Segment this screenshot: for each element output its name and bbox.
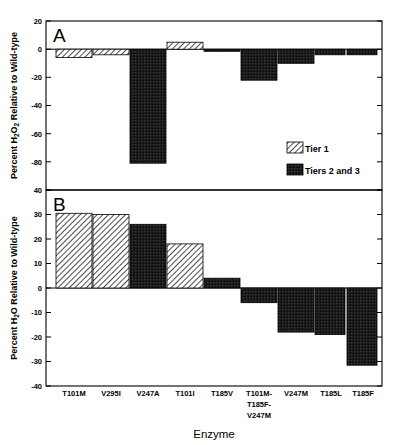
panel-a-ytick-1: 0	[38, 45, 42, 54]
panel-a-ytick-0: 20	[34, 17, 42, 26]
panel-a-ytick-5: -80	[31, 158, 42, 167]
svg-text:V247M: V247M	[247, 411, 271, 420]
xtick-label-3: T101I	[175, 389, 194, 398]
bar-a-T101I[interactable]	[167, 42, 203, 49]
svg-text:Percent H2O Relative to Wild-t: Percent H2O Relative to Wild-type	[9, 216, 20, 360]
x-axis-title: Enzyme	[193, 428, 235, 440]
panel-a-letter: A	[53, 25, 66, 46]
svg-text:Percent H2O2 Relative to Wild-: Percent H2O2 Relative to Wild-type	[9, 32, 20, 179]
panel-a-ytick-3: -40	[31, 101, 42, 110]
panel-b-ytick-2: 20	[34, 235, 42, 244]
legend: Tier 1 Tiers 2 and 3	[287, 142, 360, 176]
xtick-label-0: T101M	[62, 389, 85, 398]
panel-a-ytick-2: -20	[31, 73, 42, 82]
bar-a-V247A[interactable]	[130, 49, 166, 163]
svg-text:T101M-: T101M-	[246, 389, 272, 398]
panel-b-ytick-4: 0	[38, 284, 42, 293]
panel-b-ytick-6: -20	[31, 333, 42, 342]
bar-b-T185L[interactable]	[315, 288, 345, 335]
bar-a-T101M[interactable]	[56, 49, 92, 57]
xtick-label-5: T101M- T185F- V247M	[246, 389, 272, 420]
panel-b-ytick-3: 10	[34, 259, 42, 268]
panel-a-left-ticks	[46, 21, 51, 190]
legend-swatch-tier23	[287, 164, 303, 175]
panel-a-ylabel: Percent H2O2 Relative to Wild-type	[9, 32, 20, 179]
xtick-label-6: V247M	[284, 389, 308, 398]
bar-b-T185F[interactable]	[347, 288, 377, 365]
bar-b-T101I[interactable]	[167, 244, 203, 288]
panel-b-ytick-8: -40	[31, 382, 42, 391]
panel-b-ytick-0: 40	[34, 186, 42, 195]
panel-a-ytick-4: -60	[31, 130, 42, 139]
bar-a-T185L[interactable]	[315, 49, 345, 55]
xtick-label-7: T185L	[320, 389, 342, 398]
panel-b-bars	[56, 213, 377, 365]
xtick-label-4: T185V	[211, 389, 233, 398]
bar-b-V295I[interactable]	[93, 215, 129, 289]
bar-a-T185F[interactable]	[347, 49, 377, 55]
bar-b-T185V[interactable]	[204, 278, 240, 288]
bar-a-V247M[interactable]	[278, 49, 314, 63]
legend-label-tier23: Tiers 2 and 3	[305, 166, 360, 176]
bar-b-T101M-T185F-V247M[interactable]	[241, 288, 277, 303]
xtick-label-8: T185F	[352, 389, 374, 398]
bar-a-T185V[interactable]	[204, 49, 240, 51]
bar-b-T101M[interactable]	[56, 213, 92, 288]
panel-a: 20 0 -20 -40 -60 -80 Percent H2O2 Relati…	[9, 17, 382, 190]
panel-b-ytick-1: 30	[34, 210, 42, 219]
svg-text:T185F-: T185F-	[247, 400, 272, 409]
panel-b-ytick-7: -30	[31, 357, 42, 366]
xtick-label-2: V247A	[137, 389, 161, 398]
legend-swatch-tier1	[287, 142, 303, 153]
bar-b-V247A[interactable]	[130, 224, 166, 288]
xtick-label-1: V295I	[101, 389, 121, 398]
bar-chart-figure: 20 0 -20 -40 -60 -80 Percent H2O2 Relati…	[0, 0, 410, 445]
bar-b-V247M[interactable]	[278, 288, 314, 332]
panel-b-letter: B	[53, 194, 66, 215]
bar-a-V295I[interactable]	[93, 49, 129, 55]
legend-label-tier1: Tier 1	[305, 144, 329, 154]
panel-a-right-ticks	[377, 21, 382, 190]
panel-b: 40 30 20 10 0 -10 -20 -30 -40 Percent H2…	[9, 186, 382, 391]
panel-b-ytick-5: -10	[31, 308, 42, 317]
panel-b-ylabel: Percent H2O Relative to Wild-type	[9, 216, 20, 360]
figure-container: 20 0 -20 -40 -60 -80 Percent H2O2 Relati…	[0, 0, 410, 445]
bar-a-T101M-T185F-V247M[interactable]	[241, 49, 277, 80]
x-axis-labels: T101M V295I V247A T101I T185V T101M- T18…	[62, 389, 374, 420]
